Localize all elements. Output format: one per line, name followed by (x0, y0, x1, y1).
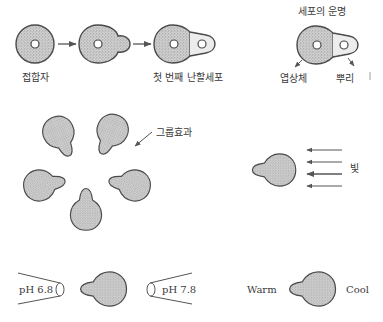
group-cell-1 (38, 111, 84, 162)
light-label: 빛 (350, 163, 359, 174)
light-cell (252, 154, 295, 186)
fate-rhizoid-nucleus (340, 41, 348, 49)
fate-thallus-nucleus (313, 41, 321, 49)
ph-right-label: pH 7.8 (162, 284, 196, 295)
rhizoid-label: 뿌리 (336, 73, 354, 84)
group-cell-3 (106, 166, 153, 204)
warm-label: Warm (247, 284, 277, 295)
cell-fate-title: 세포의 운명 (298, 6, 346, 17)
group-cell-5 (21, 166, 68, 204)
rhizoid-nucleus (198, 40, 206, 48)
polarized-cell (79, 25, 130, 63)
right-pipette-bottom (150, 296, 192, 304)
fucus-zygote-polarity-diagram: 접합자 첫 번째 난할세포 세포의 운명 엽상체 뿌리 그룹효과 (0, 0, 383, 322)
first-division-label: 첫 번째 난할세포 (153, 72, 222, 83)
thallus-label: 엽상체 (280, 73, 307, 84)
group-effect-label: 그룹효과 (156, 127, 192, 138)
ph-left-label: pH 6.8 (19, 284, 53, 295)
zygote-label: 접합자 (22, 72, 49, 83)
group-cell-2 (87, 109, 133, 160)
group-effect: 그룹효과 (21, 109, 192, 230)
right-pipette-top (150, 273, 192, 283)
temperature-gradient: Warm Cool (247, 272, 369, 306)
temperature-cell (290, 272, 336, 306)
rhizoid-pointer-arrow (348, 58, 354, 66)
ph-cell (81, 272, 127, 306)
left-pipette-tip (56, 283, 64, 296)
cool-label: Cool (346, 284, 369, 295)
right-pipette-tip (147, 283, 155, 296)
left-pipette-bottom (18, 296, 60, 304)
group-cell-4 (70, 188, 101, 230)
ph-gradient: pH 6.8 pH 7.8 (18, 272, 196, 306)
stage-zygote: 접합자 (16, 25, 54, 83)
thallus-pointer-arrow (295, 60, 302, 67)
stage-first-division: 첫 번째 난할세포 (153, 25, 222, 83)
thallus-nucleus (170, 40, 178, 48)
left-pipette-top (18, 273, 60, 283)
cell-fate: 세포의 운명 엽상체 뿌리 (280, 6, 371, 84)
group-effect-arrow (135, 132, 152, 146)
stage-rhizoid-bulge (79, 25, 130, 63)
light-effect: 빛 (252, 150, 359, 186)
polarized-nucleus (94, 40, 102, 48)
zygote-nucleus (31, 40, 39, 48)
